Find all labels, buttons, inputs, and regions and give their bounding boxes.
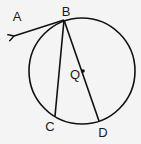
label-b: B [62, 4, 71, 19]
ray-ba [14, 20, 64, 36]
label-a: A [13, 9, 22, 24]
label-d: D [98, 125, 107, 140]
label-q: Q [70, 67, 80, 82]
center-point-q [81, 69, 85, 73]
geometry-diagram: A B C D Q [0, 0, 141, 144]
label-c: C [45, 119, 54, 134]
chord-bc [55, 20, 64, 116]
